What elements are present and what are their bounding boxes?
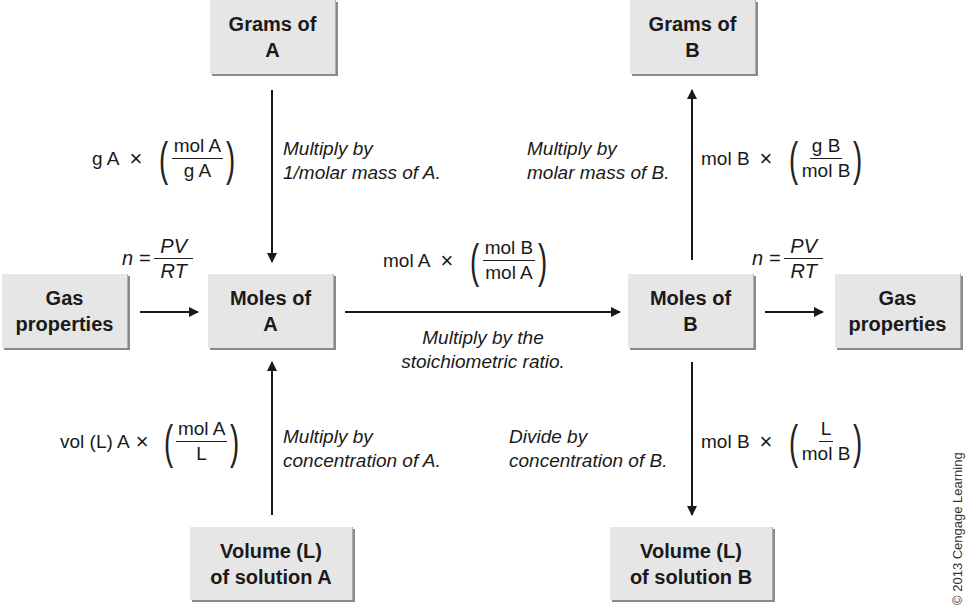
description-line: Multiply by bbox=[283, 137, 441, 161]
box-gas-properties-right: Gasproperties bbox=[835, 274, 961, 348]
description-line: Multiply by bbox=[283, 425, 441, 449]
box-grams-of-a: Grams ofA bbox=[210, 0, 336, 74]
right-paren-icon: ) bbox=[230, 419, 239, 465]
numerator: PV bbox=[784, 234, 823, 259]
right-paren-icon: ) bbox=[853, 419, 862, 465]
times-icon: × bbox=[760, 429, 773, 455]
formula-lhs: n = bbox=[752, 247, 780, 270]
connector-arrows bbox=[0, 0, 971, 611]
conversion-prefix: g A bbox=[92, 148, 119, 170]
formula-lhs: n = bbox=[122, 247, 150, 270]
formula-fraction: PV RT bbox=[784, 234, 823, 283]
conversion-prefix: mol A bbox=[383, 250, 431, 272]
description-line: concentration of B. bbox=[509, 449, 667, 473]
conversion-prefix: mol B bbox=[701, 431, 750, 453]
conversion-factor: mol A g A bbox=[172, 134, 224, 183]
description-line: concentration of A. bbox=[283, 449, 441, 473]
conversion-grams-to-moles-a: g A × ( mol A g A ) bbox=[92, 134, 239, 183]
box-gas-properties-left: Gasproperties bbox=[2, 274, 128, 348]
numerator: PV bbox=[154, 234, 193, 259]
box-moles-of-b: Moles ofB bbox=[628, 274, 754, 348]
conversion-moles-to-grams-b: mol B × ( g B mol B ) bbox=[701, 134, 866, 183]
denominator: RT bbox=[161, 259, 187, 283]
numerator: g B bbox=[810, 134, 843, 159]
description-line: Divide by bbox=[509, 425, 667, 449]
box-volume-solution-a: Volume (L)of solution A bbox=[190, 527, 353, 600]
description-line: Multiply by bbox=[527, 137, 670, 161]
description-moles-to-volume-b: Divide by concentration of B. bbox=[509, 425, 667, 473]
box-label: A bbox=[230, 311, 311, 337]
left-paren-icon: ( bbox=[790, 419, 799, 465]
copyright-notice: © 2013 Cengage Learning bbox=[950, 452, 965, 605]
left-paren-icon: ( bbox=[470, 238, 479, 284]
description-moles-to-grams-b: Multiply by molar mass of B. bbox=[527, 137, 670, 185]
conversion-factor: g B mol B bbox=[802, 134, 851, 183]
times-icon: × bbox=[760, 146, 773, 172]
left-paren-icon: ( bbox=[159, 136, 168, 182]
times-icon: × bbox=[441, 248, 454, 274]
denominator: g A bbox=[184, 159, 211, 183]
numerator: mol B bbox=[483, 236, 536, 261]
box-label: B bbox=[649, 37, 737, 63]
ideal-gas-formula-left: n = PV RT bbox=[122, 234, 193, 283]
box-label: Volume (L) bbox=[630, 538, 752, 564]
conversion-mole-ratio: mol A × ( mol B mol A ) bbox=[383, 236, 551, 285]
numerator: mol A bbox=[172, 134, 224, 159]
box-label: properties bbox=[16, 311, 114, 337]
box-label: Moles of bbox=[230, 285, 311, 311]
numerator: mol A bbox=[176, 417, 228, 442]
box-label: Grams of bbox=[649, 11, 737, 37]
description-line: Multiply by the bbox=[388, 326, 578, 350]
denominator: L bbox=[196, 442, 207, 466]
denominator: mol A bbox=[485, 261, 533, 285]
box-moles-of-a: Moles ofA bbox=[208, 274, 334, 348]
times-icon: × bbox=[129, 146, 142, 172]
description-line: 1/molar mass of A. bbox=[283, 161, 441, 185]
box-label: Volume (L) bbox=[210, 538, 331, 564]
denominator: RT bbox=[791, 259, 817, 283]
denominator: mol B bbox=[802, 159, 851, 183]
description-mole-ratio: Multiply by the stoichiometric ratio. bbox=[388, 326, 578, 374]
left-paren-icon: ( bbox=[790, 136, 799, 182]
ideal-gas-formula-right: n = PV RT bbox=[752, 234, 823, 283]
conversion-factor: mol B mol A bbox=[483, 236, 536, 285]
description-volume-to-moles-a: Multiply by concentration of A. bbox=[283, 425, 441, 473]
box-label: Grams of bbox=[229, 11, 317, 37]
box-label: Gas bbox=[849, 285, 947, 311]
box-label: Moles of bbox=[650, 285, 731, 311]
right-paren-icon: ) bbox=[853, 136, 862, 182]
left-paren-icon: ( bbox=[164, 419, 173, 465]
right-paren-icon: ) bbox=[538, 238, 547, 284]
numerator: L bbox=[819, 417, 834, 442]
conversion-prefix: mol B bbox=[701, 148, 750, 170]
box-grams-of-b: Grams ofB bbox=[630, 0, 756, 74]
times-icon: × bbox=[136, 429, 149, 455]
box-label: properties bbox=[849, 311, 947, 337]
box-label: Gas bbox=[16, 285, 114, 311]
conversion-factor: L mol B bbox=[802, 417, 851, 466]
description-line: stoichiometric ratio. bbox=[388, 350, 578, 374]
box-label: of solution A bbox=[210, 564, 331, 590]
box-label: A bbox=[229, 37, 317, 63]
conversion-moles-to-volume-b: mol B × ( L mol B ) bbox=[701, 417, 866, 466]
conversion-factor: mol A L bbox=[176, 417, 228, 466]
box-label: B bbox=[650, 311, 731, 337]
description-grams-to-moles-a: Multiply by 1/molar mass of A. bbox=[283, 137, 441, 185]
description-line: molar mass of B. bbox=[527, 161, 670, 185]
right-paren-icon: ) bbox=[226, 136, 235, 182]
box-label: of solution B bbox=[630, 564, 752, 590]
conversion-prefix: vol (L) A bbox=[60, 431, 130, 453]
conversion-volume-to-moles-a: vol (L) A × ( mol A L ) bbox=[60, 417, 243, 466]
box-volume-solution-b: Volume (L)of solution B bbox=[610, 527, 773, 600]
denominator: mol B bbox=[802, 442, 851, 466]
formula-fraction: PV RT bbox=[154, 234, 193, 283]
